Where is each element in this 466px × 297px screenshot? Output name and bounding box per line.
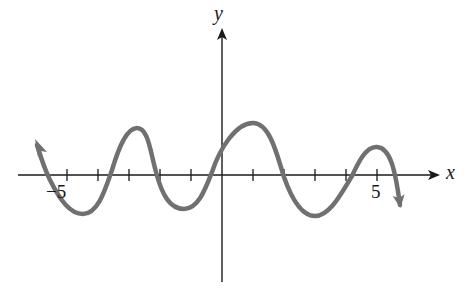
tick-label-neg5: −5 — [46, 181, 66, 203]
x-axis-label: x — [446, 161, 455, 184]
y-axis-label: y — [214, 2, 223, 25]
tick-label-pos5: 5 — [371, 181, 381, 203]
chart-canvas — [0, 0, 466, 297]
